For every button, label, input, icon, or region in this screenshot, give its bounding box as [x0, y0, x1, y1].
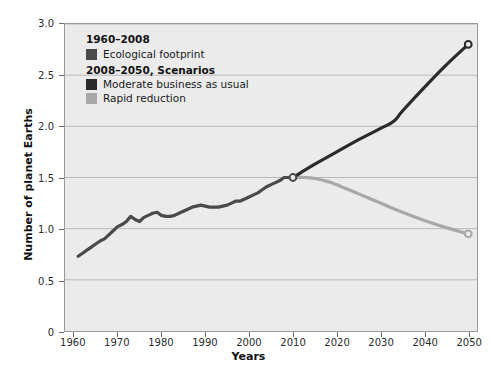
y-tick-label-2.0: 2.0 — [38, 121, 54, 132]
x-tick-mark-1980 — [161, 332, 162, 337]
x-tick-mark-2050 — [469, 332, 470, 337]
x-tick-mark-1990 — [205, 332, 206, 337]
x-tick-label-2000: 2000 — [236, 337, 261, 348]
y-tick-mark-2.0 — [59, 126, 64, 127]
y-tick-mark-1.5 — [59, 178, 64, 179]
y-tick-label-0: 0 — [48, 327, 54, 338]
series-line-ecological-footprint — [78, 178, 293, 257]
y-tick-mark-0.5 — [59, 281, 64, 282]
legend-swatch-icon — [86, 79, 97, 90]
marker-moderate-endpoint — [465, 41, 472, 48]
y-tick-label-2.5: 2.5 — [38, 69, 54, 80]
x-tick-mark-1960 — [73, 332, 74, 337]
legend-item: Moderate business as usual — [86, 79, 249, 90]
x-tick-label-1960: 1960 — [60, 337, 85, 348]
y-tick-mark-0 — [59, 332, 64, 333]
legend-swatch-icon — [86, 93, 97, 104]
y-tick-label-1.0: 1.0 — [38, 224, 54, 235]
legend-group-0: 1960–2008Ecological footprint — [86, 34, 249, 60]
x-tick-label-2050: 2050 — [456, 337, 481, 348]
series-line-moderate-business-as-usual — [293, 44, 468, 177]
x-tick-label-2010: 2010 — [280, 337, 305, 348]
legend-item: Ecological footprint — [86, 49, 249, 60]
y-tick-mark-1.0 — [59, 229, 64, 230]
chart-legend: 1960–2008Ecological footprint2008–2050, … — [86, 34, 249, 109]
marker-rapid-endpoint — [465, 230, 472, 237]
legend-swatch-icon — [86, 49, 97, 60]
x-tick-label-1980: 1980 — [148, 337, 173, 348]
x-tick-label-1990: 1990 — [192, 337, 217, 348]
legend-item-label: Ecological footprint — [103, 49, 205, 60]
x-tick-mark-2000 — [249, 332, 250, 337]
y-tick-label-3.0: 3.0 — [38, 18, 54, 29]
x-tick-mark-2040 — [425, 332, 426, 337]
x-tick-mark-2020 — [337, 332, 338, 337]
y-tick-mark-3.0 — [59, 23, 64, 24]
x-tick-label-2020: 2020 — [324, 337, 349, 348]
legend-item-label: Rapid reduction — [103, 93, 186, 104]
marker-branch-point — [290, 174, 297, 181]
y-axis-title: Number of planet Earths — [22, 105, 35, 265]
x-tick-mark-1970 — [117, 332, 118, 337]
x-tick-mark-2030 — [381, 332, 382, 337]
y-tick-label-0.5: 0.5 — [38, 275, 54, 286]
chart-figure: 00.51.01.52.02.53.0 19601970198019902000… — [0, 0, 497, 371]
x-axis-title: Years — [0, 350, 497, 363]
x-tick-label-2030: 2030 — [368, 337, 393, 348]
series-line-rapid-reduction — [293, 177, 468, 233]
legend-group-1: 2008–2050, ScenariosModerate business as… — [86, 65, 249, 105]
legend-item: Rapid reduction — [86, 93, 249, 104]
x-tick-mark-2010 — [293, 332, 294, 337]
legend-heading: 1960–2008 — [86, 34, 249, 45]
y-tick-label-1.5: 1.5 — [38, 172, 54, 183]
x-tick-label-1970: 1970 — [104, 337, 129, 348]
y-tick-mark-2.5 — [59, 75, 64, 76]
legend-heading: 2008–2050, Scenarios — [86, 65, 249, 76]
legend-item-label: Moderate business as usual — [103, 79, 249, 90]
x-tick-label-2040: 2040 — [412, 337, 437, 348]
